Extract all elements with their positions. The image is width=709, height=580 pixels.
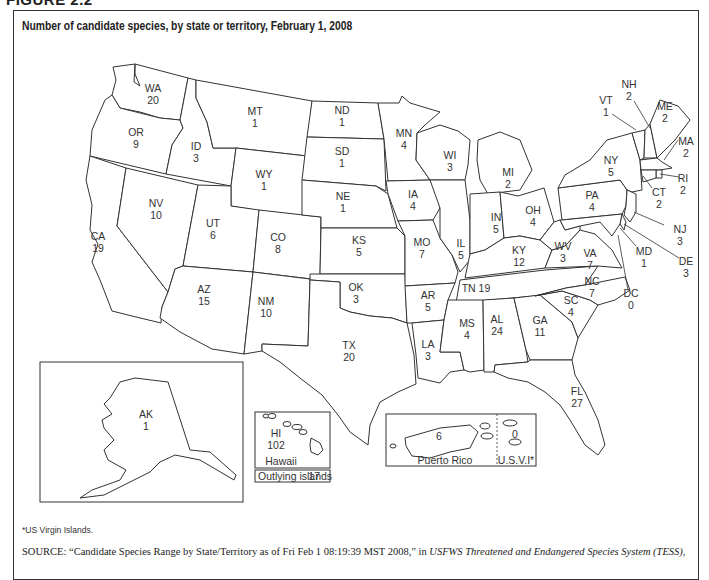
source-publication: USFWS Threatened and Endangered Species … xyxy=(429,546,683,557)
label-IN-code: IN xyxy=(491,211,502,223)
outlying-islands-value: 17 xyxy=(308,470,320,482)
label-NE-value: 1 xyxy=(340,202,346,214)
label-SC-value: 4 xyxy=(568,306,574,318)
source-citation: SOURCE: “Candidate Species Range by Stat… xyxy=(22,546,685,557)
label-KY-value: 12 xyxy=(513,256,525,268)
source-suffix: , xyxy=(683,546,686,557)
label-OH-value: 4 xyxy=(530,216,536,228)
label-KS-value: 5 xyxy=(356,246,362,258)
label-AL-value: 24 xyxy=(491,325,503,337)
label-FL-code: FL xyxy=(571,385,583,397)
label-AZ-code: AZ xyxy=(197,283,211,295)
label-NH-code: NH xyxy=(621,78,636,90)
label-MA-value: 2 xyxy=(683,147,689,159)
label-MT-code: MT xyxy=(247,105,263,117)
label-AL-code: AL xyxy=(491,313,504,325)
label-IL-value: 5 xyxy=(458,249,464,261)
label-OK-value: 3 xyxy=(353,293,359,305)
label-VT-code: VT xyxy=(599,94,613,106)
label-CO-code: CO xyxy=(270,231,286,243)
source-quote: “Candidate Species Range by State/Territ… xyxy=(66,546,429,557)
label-WA-code: WA xyxy=(145,82,162,94)
pr-island-mona xyxy=(390,444,396,448)
footnote: *US Virgin Islands. xyxy=(22,524,93,535)
state-CO[interactable] xyxy=(253,210,321,280)
label-KS-code: KS xyxy=(352,234,366,246)
label-WV-code: WV xyxy=(555,240,572,252)
label-AZ-value: 15 xyxy=(198,295,210,307)
label-SC-code: SC xyxy=(564,294,579,306)
outlying-islands-label: Outlying islands xyxy=(258,470,332,482)
label-CA-value: 19 xyxy=(92,242,104,254)
label-MD-code: MD xyxy=(636,245,653,257)
label-ID-value: 3 xyxy=(193,152,199,164)
label-AR-value: 5 xyxy=(425,301,431,313)
label-RI-value: 2 xyxy=(680,184,686,196)
label-WI-value: 3 xyxy=(447,161,453,173)
label-MO-value: 7 xyxy=(419,248,425,260)
label-HI-value: 102 xyxy=(267,439,285,451)
usvi-caption: U.S.V.I* xyxy=(498,454,534,466)
label-NH-value: 2 xyxy=(626,90,632,102)
label-GA-value: 11 xyxy=(535,326,546,338)
label-MO-code: MO xyxy=(414,236,431,248)
label-IL-code: IL xyxy=(457,237,466,249)
label-NJ-value: 3 xyxy=(677,235,683,247)
state-NM[interactable] xyxy=(244,272,310,354)
label-MN-code: MN xyxy=(396,127,412,139)
label-ME-value: 2 xyxy=(662,112,668,124)
label-CT-code: CT xyxy=(652,186,667,198)
label-CO-value: 8 xyxy=(275,243,281,255)
label-NY-code: NY xyxy=(604,154,619,166)
label-DC-value: 0 xyxy=(628,299,634,311)
label-FL-value: 27 xyxy=(571,397,583,409)
state-MA[interactable] xyxy=(640,158,672,170)
label-MT-value: 1 xyxy=(252,117,258,129)
label-DC-code: DC xyxy=(623,287,639,299)
label-PA-value: 4 xyxy=(589,201,595,213)
label-MI-value: 2 xyxy=(505,178,511,190)
label-LA-code: LA xyxy=(422,338,435,350)
label-VA-code: VA xyxy=(583,247,596,259)
label-NC-value: 7 xyxy=(589,287,595,299)
label-ND-code: ND xyxy=(334,104,350,116)
label-IN-value: 5 xyxy=(493,223,499,235)
label-DE-code: DE xyxy=(679,255,694,267)
label-UT-code: UT xyxy=(206,217,221,229)
label-NV-value: 10 xyxy=(150,209,162,221)
label-TN: TN 19 xyxy=(462,282,491,294)
label-NC-code: NC xyxy=(584,275,600,287)
label-AK-code: AK xyxy=(139,408,153,420)
pr-island-vieques xyxy=(481,433,493,439)
label-ME-code: ME xyxy=(657,100,673,112)
label-CT-value: 2 xyxy=(656,198,662,210)
label-UT-value: 6 xyxy=(210,229,216,241)
label-AR-code: AR xyxy=(421,289,436,301)
label-WV-value: 3 xyxy=(560,252,566,264)
label-NV-code: NV xyxy=(149,197,164,209)
label-KY-code: KY xyxy=(512,244,526,256)
label-MI-code: MI xyxy=(502,166,514,178)
label-SD-value: 1 xyxy=(339,157,345,169)
label-MS-code: MS xyxy=(459,317,475,329)
label-TX-value: 20 xyxy=(343,351,355,363)
label-VA-value: 7 xyxy=(587,259,593,271)
pr-island-culebra xyxy=(480,423,490,429)
label-NE-code: NE xyxy=(336,190,351,202)
label-USVI-value: 0 xyxy=(512,428,518,440)
label-WY-code: WY xyxy=(256,168,273,180)
source-prefix: SOURCE: xyxy=(22,546,66,557)
label-VT-value: 1 xyxy=(603,106,609,118)
label-ND-value: 1 xyxy=(339,116,345,128)
label-OR-value: 9 xyxy=(133,138,139,150)
label-MN-value: 4 xyxy=(401,139,407,151)
label-MD-value: 1 xyxy=(641,257,647,269)
label-WY-value: 1 xyxy=(261,180,267,192)
label-NJ-code: NJ xyxy=(674,223,687,235)
label-PR-value: 6 xyxy=(436,430,442,442)
label-GA-code: GA xyxy=(532,314,547,326)
hawaii-caption: Hawaii xyxy=(265,455,297,467)
label-WI-code: WI xyxy=(444,149,457,161)
label-OK-code: OK xyxy=(348,281,363,293)
state-AZ[interactable] xyxy=(160,266,253,354)
